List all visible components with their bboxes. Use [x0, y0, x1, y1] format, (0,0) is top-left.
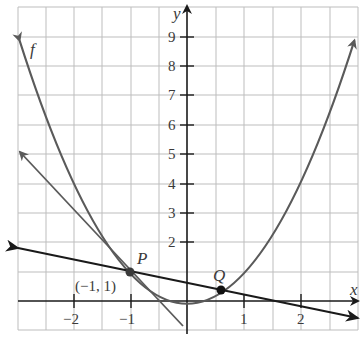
graph-canvas: 9 8 7 6 5 4 3 2 −2 −1 1 2 y x f P (−1, 1… [0, 0, 363, 339]
y-tick-label-5: 5 [168, 146, 176, 162]
y-tick-label-7: 7 [168, 87, 176, 103]
y-tick-label-4: 4 [168, 176, 176, 192]
y-axis-label: y [171, 4, 181, 23]
y-tick-label-2: 2 [168, 234, 176, 250]
secant-line-pq [18, 248, 358, 318]
point-p-coordinates: (−1, 1) [75, 278, 116, 295]
x-tick-label-2: 2 [297, 311, 305, 327]
y-tick-label-9: 9 [168, 29, 176, 45]
point-label-q: Q [213, 266, 225, 285]
x-tick-label-1: 1 [240, 311, 248, 327]
point-p [126, 268, 135, 277]
y-tick-label-3: 3 [168, 205, 176, 221]
y-tick-label-8: 8 [168, 58, 176, 74]
x-axis-label: x [349, 280, 358, 299]
function-label-f: f [30, 40, 37, 59]
x-tick-label-neg2: −2 [63, 311, 79, 327]
y-tick-label-6: 6 [168, 117, 176, 133]
point-label-p: P [136, 249, 147, 268]
x-tick-label-neg1: −1 [119, 311, 135, 327]
point-q [217, 286, 226, 295]
